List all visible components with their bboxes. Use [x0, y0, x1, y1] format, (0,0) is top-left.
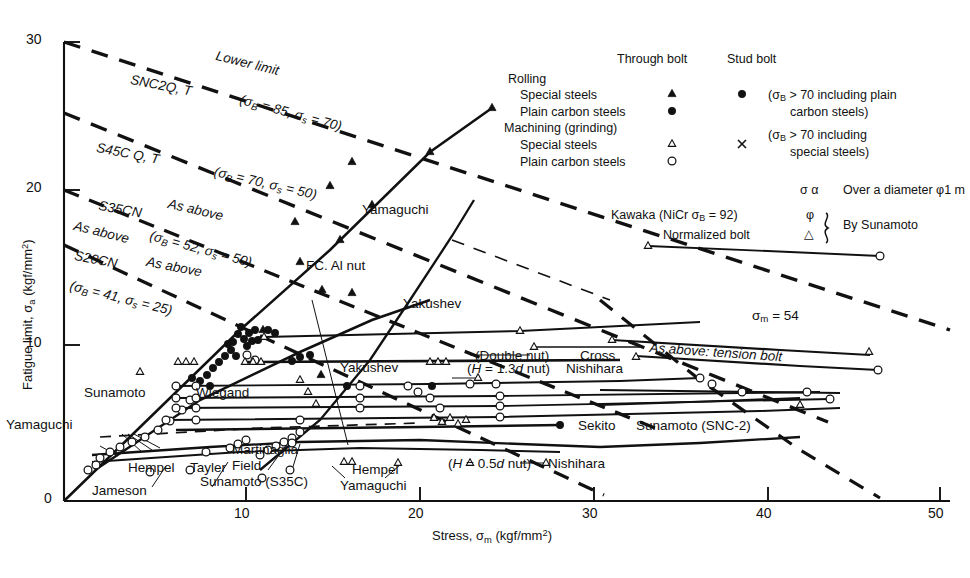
legend-normalized-bolt: Normalized bolt [663, 228, 750, 242]
series-line-sunamoto-snc2 [600, 398, 800, 405]
y-axis-unit: (kgf/mm [20, 249, 35, 300]
label-yakushev-2: Yakushev [340, 360, 398, 375]
label-sunamoto-snc2: Sunamoto (SNC-2) [636, 418, 751, 433]
limit-line-descend-right [600, 300, 880, 498]
legend-row-plain-carbon-steels: Plain carbon steels [520, 105, 626, 119]
xtick-10: 10 [234, 506, 250, 522]
y-axis-sup: 2 [20, 244, 30, 249]
legend-note-1: (σB > 70 including plain [768, 88, 897, 103]
label-hempel-left: Hempel [128, 460, 175, 475]
label-yakushev-1: Yakushev [403, 296, 461, 311]
legend-row-special-steels: Special steels [520, 88, 597, 102]
xtick-50: 50 [928, 506, 944, 522]
label-sigma-m-54: σm = 54 [752, 308, 799, 325]
label-nishihara-1: Nishihara [566, 361, 623, 376]
legend-note-2: (σB > 70 including [768, 128, 867, 143]
label-yamaguchi-mid: Yamaguchi [340, 478, 407, 493]
legend-mark-triangle: △ [804, 227, 814, 241]
legend-row-special-steels-2: Special steels [520, 138, 597, 152]
x-axis-sub: m [484, 535, 492, 545]
series-line-yakushev-upper [264, 322, 700, 337]
label-field: Field [232, 458, 261, 473]
series-line-nishihara-1 [176, 378, 700, 386]
y-axis-close: ) [20, 239, 35, 243]
legend-note-1-cont: carbon steels) [790, 105, 869, 119]
legend-over-diameter: Over a diameter φ1 m [843, 183, 965, 197]
label-h05-nut: (H = 0.5d nut) [448, 456, 531, 471]
label-wiegand: Wiegand [196, 385, 249, 400]
label-yamaguchi-left: Yamaguchi [6, 417, 73, 432]
label-tayler: Tayler [190, 460, 226, 475]
legend-mark-phi: φ [806, 208, 814, 222]
y-axis-title: Fatigue limit, σa (kgf/mm2) [20, 239, 37, 390]
legend-group-machining: Machining (grinding) [504, 121, 617, 135]
series-line-lower-band [92, 437, 800, 455]
legend-group-rolling: Rolling [508, 72, 546, 86]
label-jameson: Jameson [92, 483, 147, 498]
legend-by-sunamoto: By Sunamoto [843, 218, 918, 232]
label-hempel-mid: Hempel [352, 462, 399, 477]
xtick-20: 20 [408, 506, 424, 522]
ytick-0: 0 [44, 491, 52, 507]
legend-mark-sigma-alpha: σ α [800, 183, 818, 197]
x-axis-close: ) [548, 528, 552, 543]
y-axis-sub: a [27, 299, 37, 304]
label-h13-nut: (H = 1.3d nut) [467, 361, 550, 376]
fatigue-limit-chart: 30 20 10 0 10 20 30 40 50 Fatigue limit,… [0, 0, 970, 578]
y-axis-title-text: Fatigue limit, σ [20, 305, 35, 390]
x-axis-unit: (kgf/mm [492, 528, 543, 543]
legend-col-through-bolt: Through bolt [617, 52, 687, 66]
legend-row-plain-carbon-steels-2: Plain carbon steels [520, 155, 626, 169]
xtick-40: 40 [756, 506, 772, 522]
xtick-30: 30 [582, 506, 598, 522]
ytick-20: 20 [26, 180, 42, 196]
label-fc-al-nut: FC. Al nut [306, 258, 365, 273]
series-line-kawaka-normalized [648, 246, 880, 256]
label-sunamoto-left: Sunamoto [84, 385, 146, 400]
ytick-30: 30 [26, 32, 42, 48]
legend-note-2-cont: special steels) [790, 145, 869, 159]
label-nishihara-2: Nishihara [548, 456, 605, 471]
label-sunamoto-s35c: Sunamoto (S35C) [200, 474, 308, 489]
legend-col-stud-bolt: Stud bolt [727, 52, 776, 66]
label-martinaglia: Martinaglia [232, 442, 298, 457]
limit-line-thin-branch [452, 240, 610, 300]
x-axis-title-text: Stress, σ [432, 528, 484, 543]
label-sekito: Sekito [578, 418, 616, 433]
legend-kawaka: Kawaka (NiCr σB = 92) [611, 208, 738, 223]
label-yamaguchi-top: Yamaguchi [362, 202, 429, 217]
x-axis-title: Stress, σm (kgf/mm2) [432, 528, 552, 545]
